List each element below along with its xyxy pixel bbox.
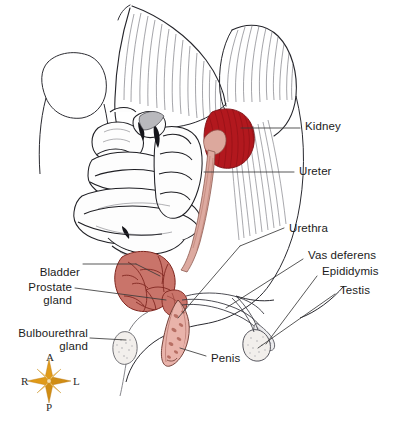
label-epididymis: Epididymis [322,265,379,278]
compass-letter-posterior: P [46,402,52,413]
bulbourethral-gland [113,312,148,396]
small-intestine-coils [74,108,202,260]
label-ureter: Ureter [299,165,332,178]
compass-letter-right: R [21,376,28,387]
anatomy-illustration [0,0,401,430]
abdominal-musculature [42,5,297,136]
label-testis: Testis [340,284,370,297]
label-vas-deferens: Vas deferens [308,249,376,262]
label-bladder: Bladder [0,266,80,279]
label-urethra: Urethra [289,222,328,235]
orientation-compass [27,359,71,403]
label-penis: Penis [211,352,240,365]
compass-letter-left: L [73,376,80,387]
label-prostate-gland: Prostate gland [0,281,72,307]
compass-letter-anterior: A [46,352,54,363]
label-kidney: Kidney [305,120,341,133]
anatomy-figure: Kidney Ureter Urethra Vas deferens Epidi… [0,0,401,430]
label-bulbourethral-gland: Bulbourethral gland [0,327,88,353]
muscle-hatching-right [227,26,293,102]
muscle-hatching-left [124,13,222,124]
